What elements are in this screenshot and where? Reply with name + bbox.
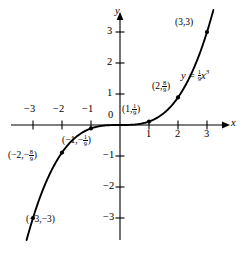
point-label-neg2-close: ) — [34, 150, 37, 160]
origin-label: 0 — [108, 110, 113, 121]
point-label-neg3-close: ) — [52, 214, 55, 224]
y-tick-label-pos2: 2 — [107, 57, 112, 68]
point-dot-4 — [176, 95, 180, 99]
equation-coefficient-denominator: 9 — [198, 76, 201, 83]
point-label-neg1-fraction: 19 — [83, 134, 87, 148]
point-label-pos1-x: 1, — [125, 104, 132, 114]
point-label-pos3-close: ) — [190, 17, 193, 27]
point-dot-5 — [205, 30, 209, 34]
x-tick-label-pos2: 2 — [175, 129, 180, 140]
point-label-neg2-fraction: 89 — [29, 149, 33, 163]
point-label-neg1-sign: − — [78, 135, 83, 145]
point-dot-3 — [147, 119, 151, 123]
equation-coefficient-fraction: 19 — [198, 69, 201, 83]
point-label-pos2-denominator: 9 — [162, 87, 166, 94]
x-axis-arrowhead — [222, 122, 230, 129]
equation-lhs: y — [181, 70, 186, 81]
x-tick-label-neg2: −2 — [53, 104, 64, 115]
point-label-neg2-sign: − — [24, 150, 29, 160]
point-label-pos1-close: ) — [137, 104, 140, 114]
point-label-neg1-denominator: 9 — [83, 141, 87, 148]
x-tick-label-pos1: 1 — [146, 129, 151, 140]
equation-equals: = — [186, 70, 198, 81]
y-tick-label-neg2: −2 — [103, 181, 114, 192]
point-label-neg1-x: −1, — [65, 135, 77, 145]
y-axis-name: y — [115, 6, 120, 17]
y-tick-label-pos3: 3 — [107, 26, 112, 37]
point-label-pos2: (2,89) — [152, 80, 170, 94]
point-label-neg3-x: −3, — [29, 214, 41, 224]
x-axis-name: x — [231, 118, 236, 129]
point-label-neg3-y: −3 — [42, 214, 52, 224]
equation-label: y=19x3 — [181, 69, 209, 83]
point-label-pos3: (3,3) — [175, 18, 193, 28]
point-label-pos1-fraction: 19 — [132, 103, 136, 117]
y-tick-label-neg3: −3 — [103, 212, 114, 223]
x-tick-label-neg1: −1 — [82, 104, 93, 115]
point-label-neg2-denominator: 9 — [29, 156, 33, 163]
point-label-pos1: (1,19) — [122, 103, 140, 117]
x-tick-label-neg3: −3 — [24, 104, 35, 115]
y-tick-label-pos1: 1 — [107, 88, 112, 99]
point-dot-2 — [89, 126, 93, 130]
point-label-neg2-x: −2, — [11, 150, 23, 160]
y-tick-label-neg1: −1 — [103, 150, 114, 161]
equation-exponent: 3 — [206, 68, 210, 76]
figure-container: −3 −2 −1 1 2 3 3 2 1 −1 −2 −3 0 x y (3,3… — [0, 0, 244, 258]
point-label-neg2: (−2,−89) — [8, 149, 37, 163]
point-label-pos2-fraction: 89 — [162, 80, 166, 94]
point-dot-1 — [60, 150, 64, 154]
point-label-neg3: (−3,−3) — [26, 215, 55, 225]
point-label-neg1: (−1,−19) — [62, 134, 91, 148]
x-tick-label-pos3: 3 — [204, 129, 209, 140]
point-label-pos1-denominator: 9 — [132, 110, 136, 117]
point-label-pos2-close: ) — [167, 81, 170, 91]
point-label-neg1-close: ) — [88, 135, 91, 145]
point-label-pos2-x: 2, — [155, 81, 162, 91]
y-axis-group — [117, 12, 124, 240]
